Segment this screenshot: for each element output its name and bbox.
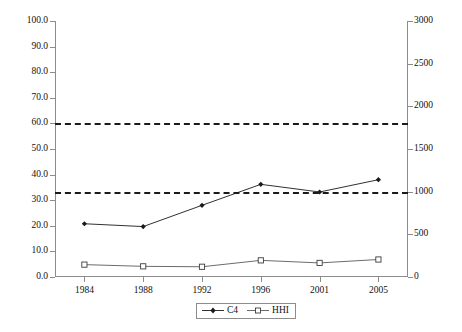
data-point-c4-1984: [82, 221, 87, 226]
chart-legend: C4 HHI: [196, 303, 296, 319]
data-point-hhi-2005: [376, 257, 381, 262]
series-layer: [0, 0, 462, 332]
data-point-c4-2005: [376, 177, 381, 182]
filled-diamond-marker-icon: [202, 306, 224, 315]
legend-label-c4: C4: [227, 305, 238, 316]
line-chart: 100.0 90.0 80.0 70.0 60.0 50.0 40.0 30.0…: [0, 0, 462, 332]
bottom-text-artifact: [14, 322, 16, 330]
series-line-hhi: [84, 260, 378, 267]
data-point-c4-2001: [317, 189, 322, 194]
open-square-marker-icon: [247, 306, 269, 315]
data-point-hhi-1996: [258, 258, 263, 263]
data-point-hhi-2001: [317, 260, 322, 265]
legend-item-c4: C4: [202, 305, 238, 316]
legend-label-hhi: HHI: [272, 305, 289, 316]
data-point-c4-1996: [258, 182, 263, 187]
data-point-hhi-1988: [141, 264, 146, 269]
data-point-c4-1988: [141, 224, 146, 229]
data-point-c4-1992: [199, 203, 204, 208]
legend-item-hhi: HHI: [247, 305, 289, 316]
data-point-hhi-1984: [82, 262, 87, 267]
data-point-hhi-1992: [199, 264, 204, 269]
series-line-c4: [84, 180, 378, 227]
series-markers-c4: [82, 177, 381, 229]
